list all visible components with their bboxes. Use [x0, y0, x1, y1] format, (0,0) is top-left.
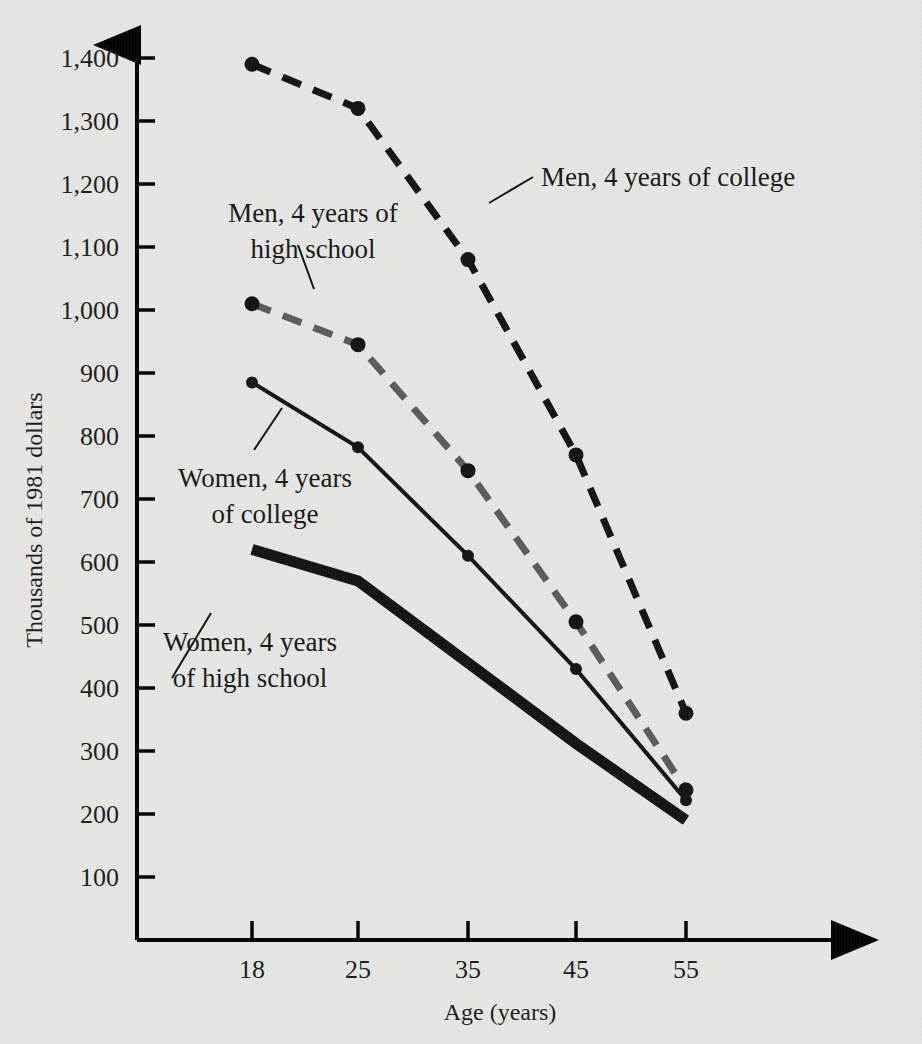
- series-men-4-years-of-college: [245, 57, 694, 721]
- y-tick-label: 1,300: [61, 107, 120, 136]
- x-axis-ticks: 1825354555: [239, 921, 699, 984]
- data-point-marker: [245, 57, 260, 72]
- series-women-4-years-of-college: [246, 376, 692, 806]
- data-point-marker: [461, 252, 476, 267]
- series-line: [252, 382, 686, 800]
- x-tick-label: 35: [455, 955, 481, 984]
- y-tick-label: 700: [80, 485, 119, 514]
- label-men-college: Men, 4 years of college: [541, 162, 795, 192]
- leader-women-college: [254, 408, 282, 450]
- data-point-marker: [680, 794, 692, 806]
- y-tick-label: 600: [80, 548, 119, 577]
- data-point-marker: [569, 614, 584, 629]
- data-point-marker: [245, 296, 260, 311]
- y-tick-label: 200: [80, 800, 119, 829]
- label-women-highschool-line2: of high school: [173, 663, 328, 693]
- x-axis-title: Age (years): [444, 999, 557, 1025]
- data-point-marker: [351, 337, 366, 352]
- y-tick-label: 900: [80, 359, 119, 388]
- x-tick-label: 18: [239, 955, 265, 984]
- data-point-marker: [352, 441, 364, 453]
- y-tick-label: 500: [80, 611, 119, 640]
- label-women-highschool-line1: Women, 4 years: [163, 627, 337, 657]
- chart-figure: 1002003004005006007008009001,0001,1001,2…: [0, 0, 922, 1044]
- x-tick-label: 55: [673, 955, 699, 984]
- label-women-college-line2: of college: [211, 499, 318, 529]
- label-men-highschool-line1: Men, 4 years of: [228, 198, 397, 228]
- x-tick-label: 25: [345, 955, 371, 984]
- series-line: [252, 304, 686, 790]
- y-tick-label: 1,100: [61, 233, 120, 262]
- data-point-marker: [246, 376, 258, 388]
- data-point-marker: [351, 101, 366, 116]
- leader-men-college: [489, 177, 533, 203]
- series-men-4-years-of-high-school: [245, 296, 694, 797]
- y-tick-label: 100: [80, 863, 119, 892]
- y-tick-label: 1,400: [61, 44, 120, 73]
- y-tick-label: 1,200: [61, 170, 120, 199]
- y-axis-title: Thousands of 1981 dollars: [21, 392, 47, 647]
- label-men-highschool-line2: high school: [250, 234, 375, 264]
- y-tick-label: 800: [80, 422, 119, 451]
- label-women-college-line1: Women, 4 years: [178, 463, 352, 493]
- y-tick-label: 300: [80, 737, 119, 766]
- data-point-marker: [679, 706, 694, 721]
- y-axis-ticks: 1002003004005006007008009001,0001,1001,2…: [61, 44, 156, 892]
- x-tick-label: 45: [563, 955, 589, 984]
- data-point-marker: [462, 550, 474, 562]
- data-point-marker: [570, 663, 582, 675]
- y-tick-label: 1,000: [61, 296, 120, 325]
- y-tick-label: 400: [80, 674, 119, 703]
- data-point-marker: [461, 463, 476, 478]
- chart-canvas: 1002003004005006007008009001,0001,1001,2…: [0, 0, 922, 1044]
- data-point-marker: [569, 447, 584, 462]
